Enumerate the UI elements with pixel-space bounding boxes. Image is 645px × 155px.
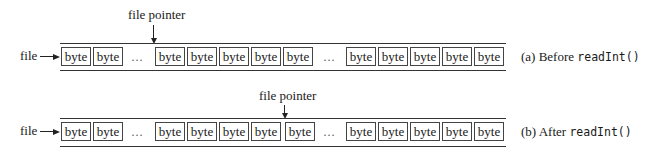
byte-cell: byte: [61, 122, 91, 141]
caption-after: (b) After readInt(): [521, 125, 632, 139]
byte-cell: byte: [251, 122, 281, 141]
file-arrow-shaft: [40, 56, 54, 57]
byte-cell: byte: [187, 47, 217, 66]
byte-cell: byte: [283, 47, 313, 66]
caption-code: readInt(): [569, 125, 631, 139]
file-label: file: [20, 124, 37, 138]
byte-cell: byte: [346, 47, 376, 66]
ellipsis: …: [131, 50, 143, 65]
byte-cell: byte: [219, 122, 249, 141]
caption-code: readInt(): [577, 50, 639, 64]
file-label: file: [20, 49, 37, 63]
file-pointer-label: file pointer: [259, 89, 316, 103]
byte-cell: byte: [93, 122, 123, 141]
caption-text: (a) Before: [521, 49, 577, 64]
ellipsis: …: [131, 125, 143, 140]
byte-cell: byte: [155, 122, 185, 141]
byte-cell: byte: [474, 47, 504, 66]
file-strip-bottom: [60, 70, 506, 71]
ellipsis: …: [323, 50, 335, 65]
byte-cell: byte: [251, 47, 281, 66]
byte-cell: byte: [219, 47, 249, 66]
file-strip-top: [60, 118, 506, 119]
byte-cell: byte: [410, 122, 440, 141]
ellipsis: …: [323, 125, 335, 140]
caption-before: (a) Before readInt(): [521, 50, 640, 64]
byte-cell: byte: [474, 122, 504, 141]
byte-cell: byte: [378, 47, 408, 66]
byte-cell: byte: [346, 122, 376, 141]
caption-text: (b) After: [521, 124, 569, 139]
pointer-arrow-shaft: [153, 25, 154, 39]
byte-cell: byte: [410, 47, 440, 66]
file-arrow-shaft: [40, 131, 54, 132]
byte-cell: byte: [93, 47, 123, 66]
file-strip-top: [60, 43, 506, 44]
file-arrow-icon: [53, 54, 60, 60]
byte-cell-current: byte: [285, 122, 315, 141]
byte-cell: byte: [187, 122, 217, 141]
byte-cell: byte: [442, 47, 472, 66]
byte-cell-current: byte: [155, 47, 185, 66]
byte-cell: byte: [442, 122, 472, 141]
file-strip-bottom: [60, 146, 506, 147]
file-arrow-icon: [53, 129, 60, 135]
file-pointer-label: file pointer: [128, 8, 185, 22]
byte-cell: byte: [378, 122, 408, 141]
byte-cell: byte: [61, 47, 91, 66]
